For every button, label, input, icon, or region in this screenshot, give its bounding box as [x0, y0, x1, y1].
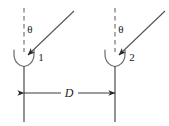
- incident-ray-right: [119, 11, 165, 55]
- slit-label-two: 2: [129, 51, 135, 63]
- angle-label-right: θ: [118, 23, 123, 35]
- angle-label-left: θ: [27, 23, 32, 35]
- separation-label: D: [64, 86, 74, 100]
- physics-diagram-figure: θ 1 θ 2 D: [0, 0, 169, 126]
- diagram-canvas: θ 1 θ 2 D: [0, 0, 169, 126]
- slit-label-one: 1: [38, 51, 44, 63]
- incident-ray-left: [28, 11, 74, 55]
